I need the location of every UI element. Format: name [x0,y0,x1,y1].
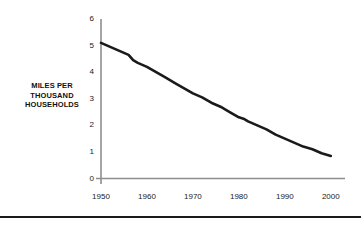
x-tick-label-1950: 1950 [84,192,118,201]
y-tick-label-6: 6 [82,14,94,23]
x-tick-label-1970: 1970 [176,192,210,201]
y-tick-label-3: 3 [82,94,94,103]
y-tick-label-1: 1 [82,147,94,156]
footer-rule [0,216,361,218]
data-line-miles-per-thousand-households [101,43,331,156]
y-tick-label-5: 5 [82,41,94,50]
y-tick-label-4: 4 [82,67,94,76]
y-axis-title-line-2: THOUSAND [18,91,86,101]
x-tick-label-2000: 2000 [314,192,348,201]
x-tick-label-1980: 1980 [222,192,256,201]
y-tick-label-0: 0 [82,174,94,183]
x-tick-label-1960: 1960 [130,192,164,201]
chart-figure: MILES PER THOUSAND HOUSEHOLDS 6 5 4 3 2 … [0,0,361,227]
axes-group [96,19,345,184]
y-axis-title-line-3: HOUSEHOLDS [18,100,86,110]
y-tick-label-2: 2 [82,120,94,129]
y-axis-title: MILES PER THOUSAND HOUSEHOLDS [18,81,86,110]
y-axis-title-line-1: MILES PER [18,81,86,91]
x-tick-label-1990: 1990 [268,192,302,201]
data-series-group [101,43,331,156]
